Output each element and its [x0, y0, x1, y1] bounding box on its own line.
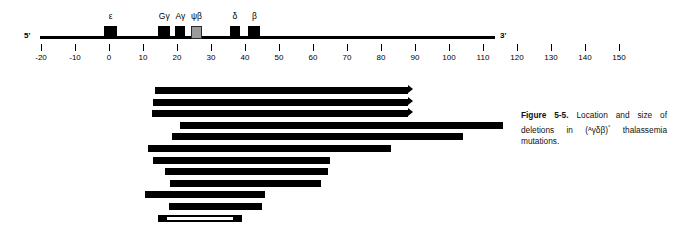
deletion-bar: [145, 191, 266, 198]
deletion-open-end-arrow-icon: [408, 97, 413, 105]
gene-map: 5' 3' εGγAγψβδβ -20-10010203040506070809…: [0, 0, 520, 80]
deletion-row: 5. Yunnanese: [0, 132, 520, 144]
axis-tick-label-110: 110: [468, 53, 498, 62]
gene-label-β: β: [240, 11, 268, 21]
figure-container: 5' 3' εGγAγψβδβ -20-10010203040506070809…: [0, 0, 673, 232]
three-prime-label: 3': [500, 31, 506, 40]
axis-tick-label--10: -10: [60, 53, 90, 62]
deletion-bar: [172, 133, 463, 140]
deletion-row: 8. Belgian: [0, 167, 520, 179]
deletion-row: 2. Malay-1: [0, 98, 520, 110]
deletion-chart: 1. Cantonese2. Malay-13. Malay-24. Chine…: [0, 84, 520, 232]
axis-tick-20: [177, 44, 178, 51]
axis-tick-label-70: 70: [332, 53, 362, 62]
axis-tick-label-20: 20: [162, 53, 192, 62]
axis-tick-label-100: 100: [434, 53, 464, 62]
deletion-bar: [180, 122, 503, 129]
deletion-bar: [170, 180, 321, 187]
axis-tick-label-150: 150: [604, 53, 634, 62]
axis-tick-label-50: 50: [264, 53, 294, 62]
axis-tick-0: [109, 44, 110, 51]
axis-tick-label-80: 80: [366, 53, 396, 62]
deletion-bar: [165, 168, 328, 175]
gene-box-Gγ: [158, 26, 170, 39]
axis-tick-100: [449, 44, 450, 51]
axis-tick-label-40: 40: [230, 53, 260, 62]
axis-tick-label-60: 60: [298, 53, 328, 62]
axis-tick-120: [517, 44, 518, 51]
axis-tick-10: [143, 44, 144, 51]
figure-caption: Figure 5-5. Location and size of deletio…: [521, 110, 667, 147]
deletion-bar: [169, 203, 263, 210]
axis-tick-label-0: 0: [94, 53, 124, 62]
axis-tick-150: [619, 44, 620, 51]
figure-number: Figure 5-5.: [521, 110, 569, 120]
five-prime-label: 5': [24, 31, 30, 40]
deletion-bar: [153, 157, 330, 164]
gene-box-Aγ: [175, 26, 185, 39]
gene-label-ε: ε: [97, 11, 125, 21]
axis-tick-label-140: 140: [570, 53, 600, 62]
axis-tick-label-30: 30: [196, 53, 226, 62]
axis-tick-130: [551, 44, 552, 51]
axis-tick-label-120: 120: [502, 53, 532, 62]
axis-tick-140: [585, 44, 586, 51]
deletion-row: 10. Turkish: [0, 190, 520, 202]
deletion-bar: [148, 145, 391, 152]
axis-tick-label-130: 130: [536, 53, 566, 62]
axis-tick-30: [211, 44, 212, 51]
axis-tick-label-10: 10: [128, 53, 158, 62]
deletion-row: 11. Black: [0, 202, 520, 214]
axis-tick-90: [415, 44, 416, 51]
axis-tick-110: [483, 44, 484, 51]
deletion-row: 4. Chinese: [0, 121, 520, 133]
axis-tick--10: [75, 44, 76, 51]
axis-tick-60: [313, 44, 314, 51]
gene-box-β: [248, 26, 260, 39]
axis-tick-label--20: -20: [26, 53, 56, 62]
caption-genotype: ᴬγδβ: [588, 125, 605, 135]
axis-tick-80: [381, 44, 382, 51]
deletion-bar-cap-right: [233, 215, 242, 222]
gene-box-ε: [104, 26, 118, 39]
axis-tick-50: [279, 44, 280, 51]
axis-tick-70: [347, 44, 348, 51]
deletion-open-end-arrow-icon: [408, 85, 413, 93]
gene-label-ψβ: ψβ: [183, 11, 211, 21]
axis-tick--20: [41, 44, 42, 51]
axis-tick-40: [245, 44, 246, 51]
deletion-row: 12. Indian: [0, 214, 520, 226]
deletion-row: 1. Cantonese: [0, 86, 520, 98]
deletion-bar: [153, 99, 408, 106]
axis-tick-label-90: 90: [400, 53, 430, 62]
deletion-bar: [155, 87, 408, 94]
gene-box-δ: [230, 26, 240, 39]
deletion-bar: [152, 110, 409, 117]
deletion-open-end-arrow-icon: [408, 108, 413, 116]
deletion-bar-cap-left: [158, 215, 167, 222]
deletion-row: 7. German: [0, 156, 520, 168]
deletion-row: 6. Thai: [0, 144, 520, 156]
deletion-bar: [158, 215, 241, 222]
deletion-row: 9. Italian: [0, 179, 520, 191]
gene-box-ψβ: [191, 26, 203, 39]
deletion-row: 3. Malay-2: [0, 109, 520, 121]
